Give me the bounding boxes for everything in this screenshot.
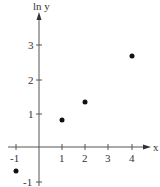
y-axis-arrow-icon: [37, 12, 42, 20]
data-point: [130, 54, 135, 59]
y-tick-label: 2: [28, 74, 34, 86]
data-point: [83, 100, 88, 105]
x-tick-label: 1: [59, 152, 65, 164]
x-tick-label: -1: [10, 152, 19, 164]
chart: ln y x -1 1 2 3 4 3 2 1 -1: [0, 0, 160, 187]
data-point: [60, 118, 65, 123]
y-tick-label: 1: [28, 108, 34, 120]
x-tick-label: 4: [129, 152, 135, 164]
x-tick-label: 2: [82, 152, 88, 164]
x-axis-label: x: [153, 141, 159, 153]
y-tick-label: 3: [28, 39, 34, 51]
x-axis-arrow-icon: [143, 145, 151, 150]
data-point: [14, 169, 19, 174]
y-tick-label: -1: [23, 176, 32, 187]
x-tick-label: 3: [105, 152, 111, 164]
y-axis-label: ln y: [33, 0, 50, 12]
